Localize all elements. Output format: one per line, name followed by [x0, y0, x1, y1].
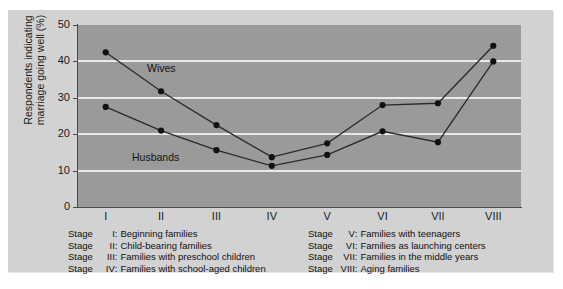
x-axis-line	[77, 207, 522, 208]
legend-stage-numeral: VI	[333, 240, 355, 252]
legend-row: StageIV:Families with school-aged childr…	[68, 263, 298, 275]
data-point	[158, 88, 164, 94]
data-point	[213, 147, 219, 153]
legend-row: StageVIII:Aging families	[308, 263, 548, 275]
legend-stage-description: Families in the middle years	[360, 251, 478, 263]
figure-card: Respondents indicating marriage going we…	[8, 10, 553, 272]
x-tick-label: V	[307, 210, 347, 222]
legend-stage-numeral: V	[333, 228, 355, 240]
legend-stage-description: Aging families	[360, 263, 419, 275]
legend-stage-description: Families with teenagers	[360, 228, 460, 240]
series-label-wives: Wives	[147, 62, 176, 74]
x-tick-label: IV	[252, 210, 292, 222]
data-point	[213, 122, 219, 128]
legend-stage-word: Stage	[308, 263, 333, 275]
y-tick-label-wrap: 10	[44, 165, 70, 176]
x-tick-label: VIII	[473, 210, 513, 222]
series-label-husbands: Husbands	[132, 151, 179, 163]
y-tick-mark	[73, 207, 78, 208]
legend-stage-description: Beginning families	[120, 228, 197, 240]
x-tick-label: II	[141, 210, 181, 222]
legend-stage-word: Stage	[308, 228, 333, 240]
legend-stage-word: Stage	[68, 228, 93, 240]
legend-stage-numeral: III	[93, 251, 115, 263]
legend-row: StageIII:Families with preschool childre…	[68, 251, 298, 263]
legend-stage-numeral: I	[93, 228, 115, 240]
y-tick-label: 30	[44, 92, 70, 103]
legend-stage-description: Families with preschool children	[120, 251, 255, 263]
data-point	[379, 102, 385, 108]
data-point	[269, 163, 275, 169]
legend-row: StageV:Families with teenagers	[308, 228, 548, 240]
data-point	[324, 152, 330, 158]
legend-row: StageII:Child-bearing families	[68, 240, 298, 252]
legend-stage-numeral: II	[93, 240, 115, 252]
data-point	[490, 58, 496, 64]
legend-stage-word: Stage	[308, 240, 333, 252]
stage-legend: StageI:Beginning familiesStageII:Child-b…	[8, 228, 553, 274]
x-tick-label: VII	[418, 210, 458, 222]
legend-stage-word: Stage	[68, 240, 93, 252]
legend-row: StageVII:Families in the middle years	[308, 251, 548, 263]
data-point	[490, 43, 496, 49]
y-tick-label-wrap: 20	[44, 128, 70, 139]
data-point	[269, 154, 275, 160]
data-point	[324, 140, 330, 146]
y-tick-label-wrap: 0	[44, 201, 70, 212]
legend-row: StageI:Beginning families	[68, 228, 298, 240]
stage-legend-right-column: StageV:Families with teenagersStageVI:Fa…	[308, 228, 548, 274]
y-tick-label: 10	[44, 165, 70, 176]
x-tick-label: I	[86, 210, 126, 222]
legend-stage-description: Families as launching centers	[360, 240, 485, 252]
y-tick-label: 20	[44, 128, 70, 139]
legend-stage-description: Child-bearing families	[120, 240, 211, 252]
series-plot	[78, 25, 521, 207]
data-point	[379, 128, 385, 134]
legend-stage-numeral: VIII	[333, 263, 355, 275]
data-point	[435, 100, 441, 106]
legend-stage-word: Stage	[68, 251, 93, 263]
x-tick-label: VI	[363, 210, 403, 222]
data-point	[103, 104, 109, 110]
y-tick-label: 50	[44, 19, 70, 30]
data-point	[103, 49, 109, 55]
legend-stage-numeral: VII	[333, 251, 355, 263]
y-tick-label-wrap: 50	[44, 19, 70, 30]
legend-row: StageVI:Families as launching centers	[308, 240, 548, 252]
data-point	[435, 139, 441, 145]
y-tick-label-wrap: 30	[44, 92, 70, 103]
y-tick-label: 40	[44, 55, 70, 66]
legend-stage-word: Stage	[308, 251, 333, 263]
y-tick-label: 0	[44, 201, 70, 212]
y-axis-title: Respondents indicating marriage going we…	[22, 0, 46, 145]
legend-stage-word: Stage	[68, 263, 93, 275]
legend-stage-description: Families with school-aged children	[120, 263, 265, 275]
data-point	[158, 127, 164, 133]
legend-stage-numeral: IV	[93, 263, 115, 275]
y-tick-label-wrap: 40	[44, 55, 70, 66]
stage-legend-left-column: StageI:Beginning familiesStageII:Child-b…	[68, 228, 298, 274]
x-tick-label: III	[196, 210, 236, 222]
